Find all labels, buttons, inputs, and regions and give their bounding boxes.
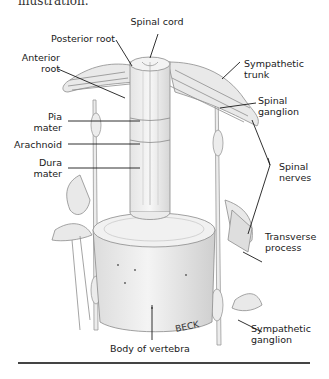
label-arachnoid: Arachnoid [8, 139, 62, 150]
label-spinal-nerves-line2: nerves [279, 172, 311, 183]
label-transverse-process: Transverse process [265, 231, 316, 253]
label-pia-mater-line2: mater [20, 122, 62, 133]
label-anterior-root: Anterior root [16, 52, 60, 74]
label-spinal-ganglion-line1: Spinal [258, 95, 299, 106]
label-spinal-cord: Spinal cord [122, 16, 192, 27]
label-sympathetic-trunk-line1: Sympathetic [244, 58, 304, 69]
vertebral-body [93, 212, 215, 332]
label-spinal-nerves-line1: Spinal [279, 161, 311, 172]
label-anterior-root-line2: root [16, 63, 60, 74]
label-sympathetic-ganglion-line1: Sympathetic [251, 323, 311, 334]
label-spinal-ganglion-line2: ganglion [258, 106, 299, 117]
label-dura-mater-line1: Dura [20, 157, 62, 168]
label-sympathetic-ganglion-line2: ganglion [251, 334, 311, 345]
label-body-of-vertebra: Body of vertebra [110, 343, 190, 354]
label-spinal-nerves: Spinal nerves [279, 161, 311, 183]
label-dura-mater: Dura mater [20, 157, 62, 179]
label-anterior-root-line1: Anterior [16, 52, 60, 63]
label-transverse-process-line1: Transverse [265, 231, 316, 242]
label-spinal-ganglion: Spinal ganglion [258, 95, 299, 117]
label-pia-mater: Pia mater [20, 111, 62, 133]
label-sympathetic-ganglion: Sympathetic ganglion [251, 323, 311, 345]
label-sympathetic-trunk: Sympathetic trunk [244, 58, 304, 80]
label-sympathetic-trunk-line2: trunk [244, 69, 304, 80]
label-transverse-process-line2: process [265, 242, 316, 253]
label-dura-mater-line2: mater [20, 168, 62, 179]
label-posterior-root: Posterior root [51, 33, 115, 44]
spinal-cord-column [130, 57, 170, 212]
label-pia-mater-line1: Pia [20, 111, 62, 122]
section-divider [18, 362, 310, 364]
